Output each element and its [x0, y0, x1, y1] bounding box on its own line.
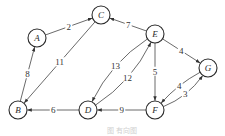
directed-graph: 271181312544396 ABCDEFG 图 有向图	[0, 0, 225, 136]
edges: 271181312544396	[20, 18, 202, 115]
edge-weight-d-e: 12	[123, 73, 132, 83]
node-d: D	[79, 101, 97, 119]
node-label: A	[33, 33, 40, 43]
edge-weight-f-d: 9	[120, 105, 125, 115]
edge-weight-e-g: 4	[179, 46, 184, 56]
edge-weight-e-c: 7	[126, 20, 131, 30]
edge-weight-c-b: 11	[55, 57, 64, 67]
node-c: C	[92, 6, 110, 24]
edge-weight-g-f: 4	[177, 81, 182, 91]
edge-weight-b-a: 8	[25, 69, 30, 79]
node-label: D	[84, 105, 92, 115]
node-label: G	[205, 63, 212, 73]
edge-weight-f-g: 3	[183, 89, 188, 99]
edge-weight-a-c: 2	[67, 22, 72, 32]
node-label: E	[151, 29, 158, 39]
node-b: B	[9, 101, 27, 119]
edge-weight-e-f: 5	[153, 67, 158, 77]
figure-caption: 图 有向图	[107, 126, 137, 135]
node-g: G	[199, 59, 217, 77]
node-f: F	[146, 101, 164, 119]
node-label: F	[151, 105, 158, 115]
node-label: B	[15, 105, 21, 115]
edge-weight-e-d: 13	[111, 61, 121, 71]
node-label: C	[98, 10, 105, 20]
node-a: A	[28, 29, 46, 47]
node-e: E	[146, 25, 164, 43]
edge-weight-d-b: 6	[51, 105, 56, 115]
